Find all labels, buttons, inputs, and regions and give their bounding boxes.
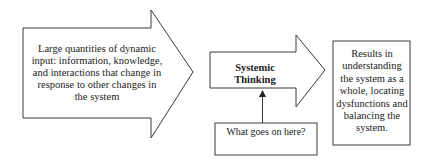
systemic-thinking-diagram: Large quantities of dynamic input: infor… [0,0,431,165]
result-box-label: Results in understanding the system as a… [335,48,409,135]
core-arrow-label: Systemic Thinking [214,62,296,86]
question-box-label: What goes on here? [217,126,315,138]
input-arrow-label: Large quantities of dynamic input: infor… [30,43,164,103]
core-arrow-label-line1: Systemic [214,62,296,74]
core-arrow-label-line2: Thinking [214,74,296,86]
connector-arrowhead-icon [259,90,266,97]
